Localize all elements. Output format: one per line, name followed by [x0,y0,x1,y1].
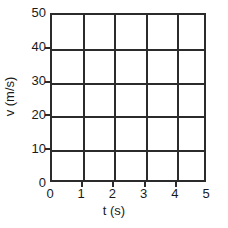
tick-label-x-3: 3 [132,186,156,201]
tick-label-x-1: 1 [69,186,93,201]
tick-label-y-10: 10 [16,141,46,156]
gridline-vertical-2 [114,15,116,180]
plot-area [50,13,206,182]
gridline-vertical-4 [177,15,179,180]
tick-label-y-20: 20 [16,107,46,122]
tick-label-x-5: 5 [194,186,218,201]
tick-label-x-2: 2 [100,186,124,201]
gridline-horizontal-20 [52,116,204,118]
gridline-horizontal-10 [52,150,204,152]
gridline-horizontal-40 [52,49,204,51]
tick-label-y-0: 0 [16,175,46,190]
tick-label-y-50: 50 [16,5,46,20]
velocity-time-graph: 0 1 2 3 4 5 0 10 20 30 40 50 t (s) v (m/… [0,0,228,228]
y-axis-label: v (m/s) [2,62,17,132]
gridline-vertical-1 [83,15,85,180]
x-axis-label: t (s) [0,203,228,218]
tick-label-y-40: 40 [16,39,46,54]
tick-label-x-4: 4 [163,186,187,201]
tick-label-y-30: 30 [16,73,46,88]
gridline-horizontal-30 [52,83,204,85]
gridline-vertical-3 [146,15,148,180]
